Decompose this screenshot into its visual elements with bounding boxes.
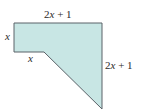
bottom-side-label: x	[28, 53, 33, 64]
right-side-label: 2x + 1	[105, 60, 133, 71]
constant-term: + 1	[115, 59, 132, 71]
top-side-label: 2x + 1	[44, 9, 72, 20]
shaded-region	[14, 23, 102, 109]
variable: x	[28, 52, 33, 64]
variable: x	[5, 30, 10, 42]
left-side-label: x	[5, 31, 10, 42]
polygon-shape	[0, 0, 144, 112]
geometry-figure: 2x + 1 2x + 1 x x	[0, 0, 144, 112]
constant-term: + 1	[54, 8, 71, 20]
